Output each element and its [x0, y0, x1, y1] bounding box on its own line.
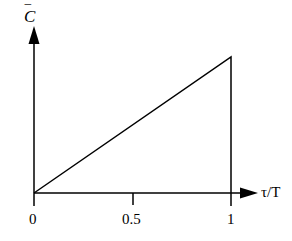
overbar: ‾ [25, 3, 31, 23]
tick-label-0: 0 [29, 211, 37, 228]
x-axis-label: τ/T [261, 184, 280, 201]
plot-area [0, 0, 292, 241]
series-line [34, 57, 231, 193]
x-axis-arrow-icon [240, 188, 258, 199]
y-axis-arrow-icon [29, 26, 40, 44]
tick-label-0.5: 0.5 [122, 211, 141, 228]
chart: ‾ C τ/T 0 0.5 1 [0, 0, 292, 241]
tick-label-1: 1 [227, 211, 235, 228]
y-axis-label: ‾ C [24, 7, 35, 27]
